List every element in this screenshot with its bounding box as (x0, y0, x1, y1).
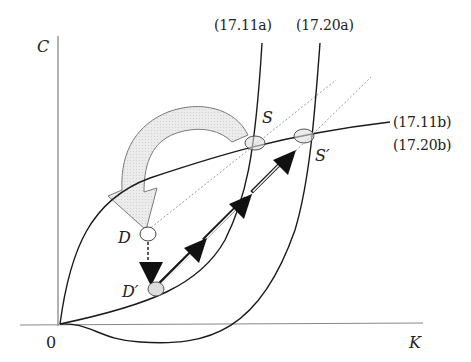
arrow-head-icon (184, 238, 207, 263)
curve-label-17-11b: (17.11b) (393, 115, 451, 129)
curve-label-17-20a: (17.20a) (296, 18, 354, 32)
k-axis-label: K (409, 335, 421, 351)
origin-label: 0 (46, 335, 56, 351)
point-d-marker (140, 227, 156, 241)
curve-label-17-11a: (17.11a) (214, 18, 272, 32)
c-axis-label: C (37, 39, 49, 55)
c-dot-zero-new-curve (60, 43, 320, 343)
k-axis (20, 323, 423, 325)
curve-label-17-20b: (17.20b) (393, 138, 451, 152)
arrow-head-icon (229, 194, 252, 219)
k-dot-zero-curve (60, 122, 390, 324)
point-s-marker (245, 136, 265, 150)
point-d-label: D (118, 230, 131, 246)
point-d-prime-label: D′ (122, 284, 138, 300)
point-s-prime-marker (294, 129, 314, 143)
axes (20, 36, 423, 326)
diagram-canvas (0, 0, 471, 362)
phase-diagram: C K 0 (17.11a) (17.20a) (17.11b) (17.20b… (0, 0, 471, 362)
point-d-prime-marker (148, 282, 164, 296)
point-s-prime-label: S′ (315, 148, 330, 164)
point-s-label: S (262, 110, 273, 126)
arrow-head-icon (273, 150, 296, 175)
